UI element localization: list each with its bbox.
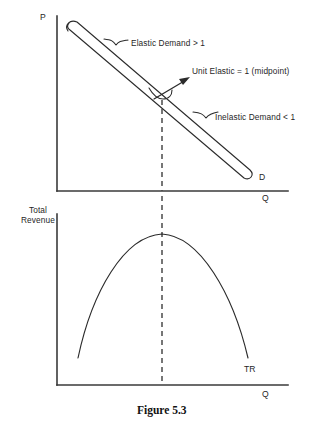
figure-caption: Figure 5.3	[137, 404, 187, 416]
total-revenue-curve	[78, 234, 248, 358]
top-chart-x-axis-label: Q	[262, 193, 269, 203]
bottom-chart-y-axis-label-line1: Total	[21, 205, 55, 215]
demand-curve-label: D	[259, 172, 265, 182]
figure-container: P Elastic Demand > 1 Unit Elastic = 1 (m…	[0, 0, 330, 427]
bottom-chart-y-axis-label-line2: Revenue	[21, 215, 55, 225]
elastic-brace-icon	[104, 39, 128, 45]
annotation-inelastic-demand: Inelastic Demand < 1	[215, 112, 295, 122]
top-chart-y-axis-label: P	[40, 12, 46, 22]
annotation-elastic-demand: Elastic Demand > 1	[131, 38, 205, 48]
bottom-chart-y-axis-label: Total Revenue	[21, 205, 55, 225]
bottom-chart-x-axis-label: Q	[262, 389, 269, 399]
bottom-chart-group	[57, 196, 288, 385]
total-revenue-curve-label: TR	[244, 364, 255, 374]
annotation-unit-elastic: Unit Elastic = 1 (midpoint)	[192, 66, 289, 76]
